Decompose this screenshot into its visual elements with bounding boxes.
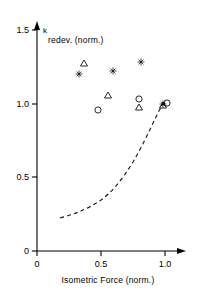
data-point-star [110, 68, 117, 75]
x-tick-label-1.0: 1.0 [159, 259, 172, 269]
data-point-circle [95, 107, 101, 113]
y-tick-label-0: 0 [24, 246, 29, 256]
series-triangle-open [81, 60, 167, 110]
dashed-reference-curve [60, 103, 165, 218]
data-point-triangle [136, 104, 143, 110]
x-axis: 0 0.5 1.0 Isometric Force (norm.) [34, 248, 186, 285]
data-point-star [138, 59, 145, 66]
y-axis: 1.5 1.0 0.5 0 [16, 21, 40, 256]
data-point-circle [136, 96, 142, 102]
data-point-star [76, 71, 83, 78]
y-axis-title-group: k redev. (norm.) [43, 26, 104, 45]
y-axis-title: redev. (norm.) [48, 35, 104, 45]
y-axis-arrow-icon [34, 21, 40, 30]
x-tick-label-0: 0 [34, 259, 39, 269]
y-tick-label-0.5: 0.5 [16, 172, 29, 182]
y-tick-label-1.0: 1.0 [16, 99, 29, 109]
data-point-triangle [81, 60, 88, 66]
chart-svg: 1.5 1.0 0.5 0 0 0.5 1.0 Isometric Force … [0, 0, 199, 295]
series-star-filled [76, 59, 167, 108]
x-tick-label-0.5: 0.5 [95, 259, 108, 269]
data-point-triangle [105, 92, 112, 98]
y-tick-label-1.5: 1.5 [16, 25, 29, 35]
scatter-chart-figure: 1.5 1.0 0.5 0 0 0.5 1.0 Isometric Force … [0, 0, 199, 295]
x-axis-arrow-icon [177, 248, 186, 254]
x-axis-title: Isometric Force (norm.) [62, 275, 155, 285]
y-axis-title-prefix: k [43, 26, 48, 35]
